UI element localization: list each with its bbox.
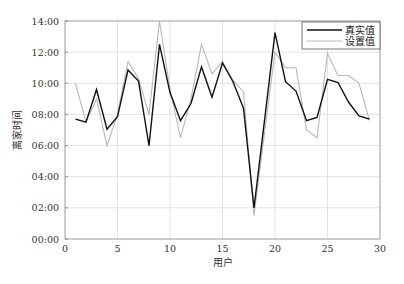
x-tick-label: 0: [62, 243, 68, 254]
legend-label-setpoint: 设置值: [345, 35, 375, 47]
y-tick-label: 12:00: [32, 47, 59, 58]
legend-label-actual: 真实值: [345, 24, 375, 36]
y-tick-label: 10:00: [32, 78, 59, 89]
x-tick-label: 15: [216, 243, 228, 254]
chart-canvas: 051015202530 00:0002:0004:0006:0008:0010…: [0, 0, 404, 284]
y-axis-title: 离家时间: [11, 110, 23, 150]
legend: 真实值 设置值: [302, 22, 380, 49]
y-tick-label: 02:00: [32, 202, 59, 213]
y-tick-label: 06:00: [32, 140, 59, 151]
x-tick-label: 25: [321, 243, 333, 254]
y-tick-label: 04:00: [32, 171, 59, 182]
y-tick-label: 14:00: [32, 16, 59, 27]
x-tick-label: 5: [114, 243, 120, 254]
y-tick-label: 00:00: [32, 234, 59, 245]
line-chart: 051015202530 00:0002:0004:0006:0008:0010…: [0, 0, 404, 284]
x-tick-label: 20: [269, 243, 281, 254]
y-tick-label: 08:00: [32, 109, 59, 120]
x-axis-title: 用户: [213, 256, 233, 268]
x-axis-ticks: 051015202530: [62, 243, 386, 254]
y-axis-ticks: 00:0002:0004:0006:0008:0010:0012:0014:00: [32, 16, 68, 245]
x-tick-label: 10: [164, 243, 176, 254]
x-tick-label: 30: [374, 243, 386, 254]
